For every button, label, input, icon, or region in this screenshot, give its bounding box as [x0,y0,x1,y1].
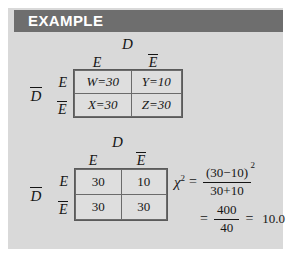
cell-r1c1: 30 [76,170,122,195]
chi-square-formula: χ2 = (30−10)2 30+10 = 400 40 = 10.0 [174,163,285,237]
table-bottom-column-header-e-bar: E [132,153,150,169]
formula-equals-3: = [245,211,253,227]
cell-w: W=30 [75,71,132,94]
table-bottom-row-header-e-bar: E [52,202,68,218]
formula-line-2: = 400 40 = 10.0 [174,201,285,237]
cell-r2c2: 30 [121,195,167,220]
cell-x: X=30 [75,94,132,117]
table-bottom-grid: 30 10 30 30 [74,168,168,221]
table-row: X=30 Z=30 [75,94,182,117]
table-top-row-group-label: D [30,88,42,105]
formula-denominator-2: 40 [217,220,236,235]
table-row: 30 30 [76,195,167,220]
table-top-row-header-e: E [53,75,67,91]
cell-y: Y=10 [131,71,181,94]
formula-fraction-2: 400 40 [214,203,240,235]
table-bottom-row-header-e: E [54,174,68,190]
table-bottom-column-group-label: D [112,134,123,151]
formula-equals-2: = [200,211,208,227]
example-header-band: EXAMPLE [14,10,283,32]
table-top-column-group-label: D [122,36,133,53]
formula-denominator-1: 30+10 [207,183,246,198]
formula-result: 10.0 [262,211,285,227]
formula-numerator-1: (30−10)2 [203,166,251,181]
page-title: EXAMPLE [28,12,103,29]
table-top-grid: W=30 Y=10 X=30 Z=30 [73,69,183,118]
cell-r2c1: 30 [76,195,122,220]
symbolic-contingency-table: D E E D E E W=30 Y=10 X=30 Z=30 [8,36,208,118]
formula-numerator-2: 400 [214,203,240,218]
table-row: W=30 Y=10 [75,71,182,94]
table-bottom-row-group-label: D [30,188,42,205]
table-top-row-header-e-bar: E [51,102,67,118]
table-row: 30 10 [76,170,167,195]
formula-line-1: χ2 = (30−10)2 30+10 [174,163,285,201]
cell-r1c2: 10 [121,170,167,195]
example-callout-box: EXAMPLE D E E D E E W=30 Y=10 X=30 Z=30 … [8,8,283,249]
table-bottom-column-header-e: E [86,153,100,169]
cell-z: Z=30 [131,94,181,117]
formula-fraction-1: (30−10)2 30+10 [203,166,251,198]
formula-equals-1: = [189,174,197,190]
chi-symbol: χ2 [174,173,185,191]
